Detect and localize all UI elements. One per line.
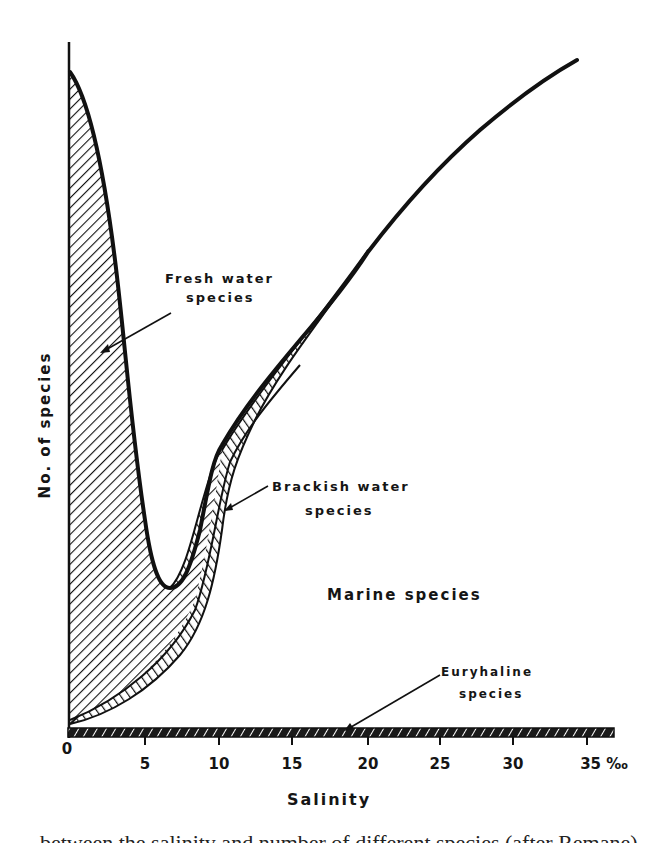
- x-axis-label: Salinity: [287, 790, 371, 809]
- figure-caption: ...between the salinity and number of di…: [0, 830, 661, 843]
- salinity-species-chart: 0 5 10 15 20 25 30 35 ‰ Salinity No. of …: [0, 0, 661, 843]
- tick-label-20: 20: [358, 755, 379, 773]
- tick-label-15: 15: [282, 755, 303, 773]
- tick-label-35: 35 ‰: [580, 755, 628, 773]
- euryhaline-label-line2: species: [459, 687, 523, 701]
- x-axis-ticks: [145, 737, 587, 745]
- brackish-water-label-line1: Brackish water: [272, 479, 410, 494]
- fresh-water-label-line1: Fresh water: [165, 271, 274, 286]
- tick-label-5: 5: [140, 755, 150, 773]
- tick-label-25: 25: [430, 755, 451, 773]
- fresh-water-label-line2: species: [186, 290, 255, 305]
- tick-label-30: 30: [503, 755, 524, 773]
- brackish-water-label-line2: species: [305, 503, 374, 518]
- euryhaline-label-line1: Euryhaline: [441, 665, 533, 679]
- x-axis-tick-labels: 0 5 10 15 20 25 30 35 ‰: [62, 740, 628, 773]
- tick-label-10: 10: [209, 755, 230, 773]
- tick-label-0: 0: [62, 740, 72, 758]
- y-axis-label: No. of species: [36, 352, 54, 499]
- euryhaline-arrow: [346, 675, 440, 730]
- marine-species-label: Marine species: [327, 586, 482, 604]
- brackish-water-arrow: [226, 486, 268, 510]
- euryhaline-bar: [68, 728, 614, 737]
